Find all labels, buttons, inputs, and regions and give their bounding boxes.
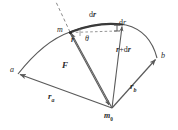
label-force-F: F (62, 61, 68, 70)
label-dr-tangent: dr (89, 11, 96, 19)
label-point-a: a (10, 66, 14, 74)
vector-ra-line (20, 75, 112, 109)
label-dr-vertical: dr (119, 19, 126, 27)
label-rb-subscript: b (134, 87, 137, 93)
label-r-plus-dr: r+dr (116, 46, 131, 54)
figure-container: a b m m0 F r θ dr dr r+dr ra rb (0, 0, 178, 130)
label-mass-m0: m0 (104, 112, 113, 122)
vector-r-line (72, 34, 113, 109)
label-radius-r: r (71, 36, 74, 44)
label-vector-rb: rb (130, 82, 136, 94)
label-ra-subscript: a (52, 97, 55, 103)
mass-m-dot (69, 31, 72, 34)
label-dr-tangent-r: r (93, 10, 96, 19)
diagram-canvas (0, 0, 178, 130)
label-point-b: b (161, 52, 165, 60)
label-mass-m0-subscript: 0 (110, 116, 113, 122)
vector-r-plus-dr-line (112, 27, 122, 109)
label-dr-vertical-r: r (123, 18, 126, 27)
label-angle-theta: θ (85, 35, 89, 43)
label-vector-ra: ra (48, 92, 54, 104)
label-r-plus-dr-r2: r (128, 45, 131, 54)
label-r-plus-dr-mid: +d (119, 45, 128, 54)
dashed-horizontal-line (71, 31, 117, 33)
trajectory-arc (18, 24, 157, 74)
label-mass-m: m (57, 26, 63, 34)
